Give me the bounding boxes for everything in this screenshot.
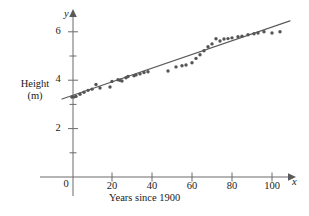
- x-axis-title: Years since 1900: [109, 192, 180, 204]
- data-point: [78, 93, 81, 96]
- data-point: [256, 31, 259, 34]
- data-point: [230, 36, 233, 39]
- y-tick-label-2: 2: [46, 122, 70, 133]
- data-point: [142, 71, 145, 74]
- data-point-group: [70, 30, 281, 99]
- x-tick-label-100: 100: [260, 180, 284, 191]
- data-point: [134, 73, 137, 76]
- x-tick-label-40: 40: [140, 180, 164, 191]
- data-point: [184, 63, 187, 66]
- data-point: [252, 32, 255, 35]
- data-point: [74, 95, 77, 98]
- data-point: [126, 75, 129, 78]
- data-point: [94, 83, 97, 86]
- data-point: [82, 91, 85, 94]
- data-point: [174, 65, 177, 68]
- data-point: [202, 49, 205, 52]
- data-point: [146, 70, 149, 73]
- data-point: [222, 37, 225, 40]
- data-point: [278, 30, 281, 33]
- data-point: [180, 64, 183, 67]
- data-point: [166, 69, 169, 72]
- data-point: [138, 72, 141, 75]
- data-point: [214, 37, 217, 40]
- data-point: [120, 79, 123, 82]
- data-point: [108, 85, 111, 88]
- data-point: [246, 33, 249, 36]
- data-point: [240, 34, 243, 37]
- data-point: [206, 45, 209, 48]
- y-axis-symbol: y: [64, 8, 69, 19]
- data-point: [226, 37, 229, 40]
- data-point: [194, 57, 197, 60]
- data-point: [218, 39, 221, 42]
- data-point: [190, 61, 193, 64]
- x-axis-symbol: x: [292, 176, 297, 187]
- y-axis-title-line1: Height: [21, 78, 50, 89]
- data-point: [110, 80, 113, 83]
- data-point: [236, 35, 239, 38]
- data-point: [98, 86, 101, 89]
- origin-label: 0: [54, 178, 78, 189]
- x-tick-label-20: 20: [100, 180, 124, 191]
- data-point: [90, 87, 93, 90]
- x-tick-label-60: 60: [180, 180, 204, 191]
- data-point: [198, 53, 201, 56]
- axes-group: [40, 9, 296, 196]
- data-point: [270, 31, 273, 34]
- x-tick-label-80: 80: [220, 180, 244, 191]
- data-point: [262, 30, 265, 33]
- data-point: [86, 89, 89, 92]
- y-axis-title-line2: (m): [9, 90, 61, 102]
- data-point: [210, 42, 213, 45]
- y-axis-arrowhead: [69, 9, 77, 17]
- y-tick-label-4: 4: [46, 73, 70, 84]
- y-tick-label-6: 6: [46, 25, 70, 36]
- scatter-plot-figure: y x Height (m) Years since 1900 64202040…: [0, 0, 309, 216]
- trend-line: [62, 21, 290, 99]
